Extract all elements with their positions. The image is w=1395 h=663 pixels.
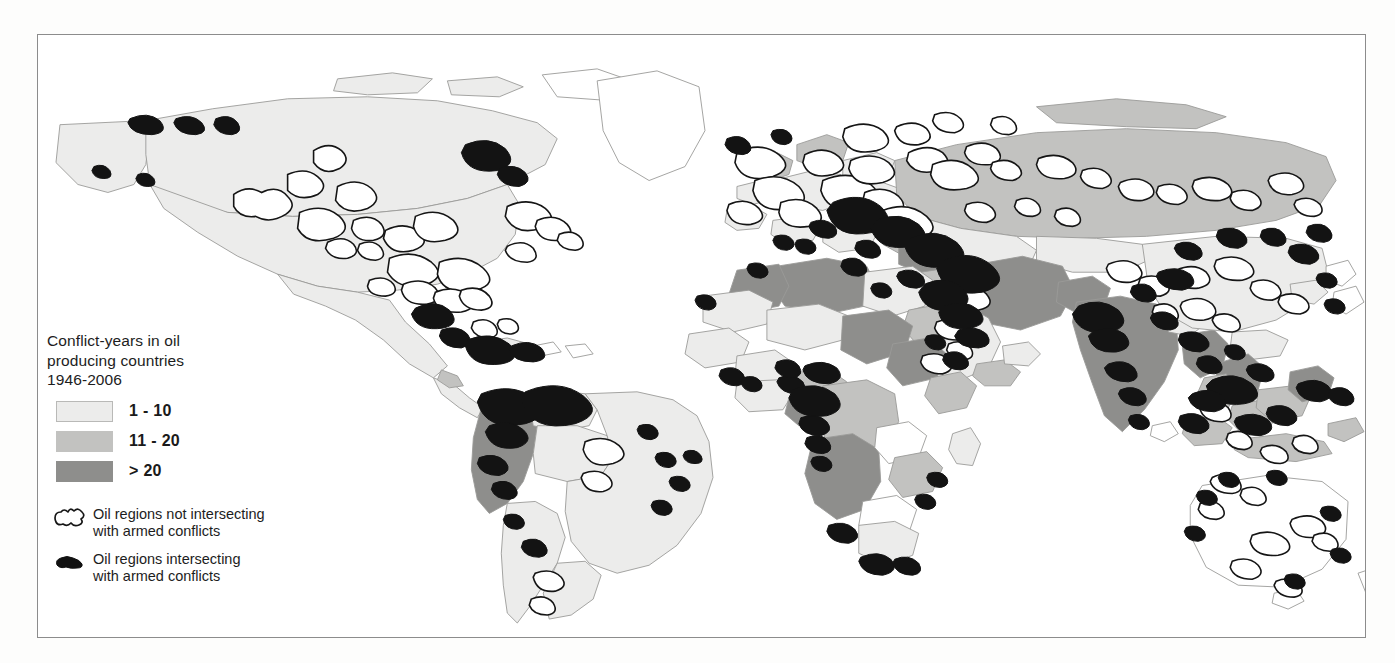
legend-swatch-1-10 (56, 401, 113, 422)
map-legend: Conflict-years in oil producing countrie… (47, 331, 317, 595)
legend-label-over-20: > 20 (129, 462, 162, 480)
legend-class-row[interactable]: 1 - 10 (47, 400, 317, 423)
oil-region-outline-icon (47, 505, 93, 529)
legend-label-11-20: 11 - 20 (129, 432, 180, 450)
legend-swatch-over-20 (56, 461, 113, 482)
legend-class-row[interactable]: 11 - 20 (47, 430, 317, 453)
legend-title: Conflict-years in oil producing countrie… (47, 331, 317, 390)
legend-symbol-label-not-intersecting: Oil regions not intersecting with armed … (93, 505, 265, 541)
legend-symbol-label-intersecting: Oil regions intersecting with armed conf… (93, 550, 241, 586)
legend-swatch-11-20 (56, 431, 113, 452)
legend-symbol-row[interactable]: Oil regions not intersecting with armed … (47, 505, 317, 541)
legend-symbol-row[interactable]: Oil regions intersecting with armed conf… (47, 550, 317, 586)
map-frame: .c1{fill:#ececeb;} .c2{fill:#c2c2c0;} .c… (37, 34, 1366, 638)
legend-label-1-10: 1 - 10 (129, 402, 172, 420)
legend-symbol-group: Oil regions not intersecting with armed … (47, 505, 317, 586)
oil-region-filled-icon (47, 550, 93, 574)
figure-page: .c1{fill:#ececeb;} .c2{fill:#c2c2c0;} .c… (0, 0, 1395, 663)
legend-class-row[interactable]: > 20 (47, 460, 317, 483)
